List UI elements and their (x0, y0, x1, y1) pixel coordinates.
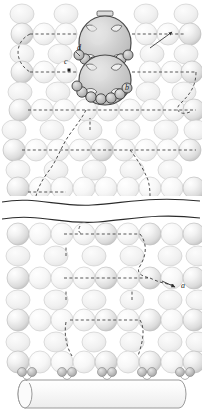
upper-lattice-block (2, 4, 202, 199)
figure-break (0, 196, 202, 222)
ellipse-row (6, 332, 202, 352)
ellipse-row (6, 246, 202, 266)
label-b: b (125, 84, 129, 92)
label-c: c (64, 58, 68, 66)
substrate-cylinder (18, 380, 186, 408)
label-d: d (77, 44, 81, 52)
site-marker-c (68, 69, 71, 72)
lower-lattice-block (6, 223, 202, 380)
ellipse-row (2, 120, 202, 140)
sphere-row (3, 139, 201, 161)
pathway-zigzag-lower (65, 226, 174, 356)
capsid-top-tab (97, 11, 113, 16)
figure-canvas: a b c d (0, 0, 202, 420)
scientific-diagram (0, 0, 202, 420)
ellipse-row (6, 160, 182, 180)
label-a: a (181, 282, 185, 290)
ellipse-row (6, 290, 202, 310)
twin-capsid-assembly (72, 11, 133, 105)
